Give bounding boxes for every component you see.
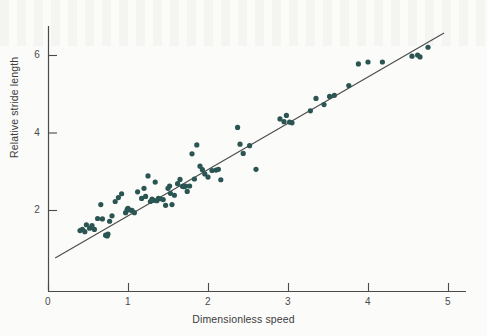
data-point	[163, 203, 168, 208]
data-point	[289, 120, 294, 125]
data-point	[135, 189, 140, 194]
data-point	[218, 177, 223, 182]
plot-canvas	[0, 0, 487, 336]
data-point	[185, 189, 190, 194]
data-point	[356, 61, 361, 66]
data-point	[100, 216, 105, 221]
data-point	[92, 227, 97, 232]
data-point	[346, 83, 351, 88]
data-point	[237, 142, 242, 147]
y-tick-marks	[49, 56, 57, 211]
x-tick-label: 5	[436, 296, 460, 307]
data-point	[143, 194, 148, 199]
data-point	[380, 59, 385, 64]
data-point	[189, 151, 194, 156]
data-point	[187, 183, 192, 188]
data-point	[107, 219, 112, 224]
x-tick-label: 3	[276, 296, 300, 307]
scatter-plot-figure: Dimensionless speed Relative stride leng…	[0, 0, 487, 336]
axis-lines	[48, 26, 466, 292]
data-point	[119, 191, 124, 196]
data-point	[192, 176, 197, 181]
data-point	[194, 142, 199, 147]
data-point	[216, 167, 221, 172]
data-point	[167, 183, 172, 188]
data-point	[425, 45, 430, 50]
data-point	[253, 167, 258, 172]
y-tick-label: 6	[26, 49, 40, 60]
data-point	[141, 186, 146, 191]
data-point	[109, 213, 114, 218]
data-point	[241, 151, 246, 156]
data-point	[98, 202, 103, 207]
data-point	[177, 177, 182, 182]
data-point	[205, 174, 210, 179]
x-tick-label: 1	[116, 296, 140, 307]
data-point	[82, 229, 87, 234]
data-point	[153, 180, 158, 185]
x-tick-label: 2	[196, 296, 220, 307]
data-point-group	[77, 45, 430, 239]
data-point	[161, 197, 166, 202]
data-point	[235, 125, 240, 130]
data-point	[327, 94, 332, 99]
data-point	[95, 216, 100, 221]
data-point	[145, 173, 150, 178]
x-axis-title: Dimensionless speed	[0, 313, 487, 325]
y-tick-label: 2	[26, 204, 40, 215]
x-tick-label: 0	[36, 296, 60, 307]
x-tick-label: 4	[356, 296, 380, 307]
data-point	[247, 143, 252, 148]
y-axis-title: Relative stride length	[8, 57, 20, 158]
data-point	[281, 119, 286, 124]
data-point	[417, 54, 422, 59]
data-point	[169, 202, 174, 207]
data-point	[313, 96, 318, 101]
data-point	[132, 210, 137, 215]
data-point	[308, 108, 313, 113]
data-point	[365, 59, 370, 64]
data-point	[409, 54, 414, 59]
data-point	[332, 93, 337, 98]
y-tick-label: 4	[26, 127, 40, 138]
data-point	[105, 231, 110, 236]
data-point	[321, 102, 326, 107]
x-tick-marks	[49, 283, 449, 291]
data-point	[172, 193, 177, 198]
data-point	[284, 113, 289, 118]
